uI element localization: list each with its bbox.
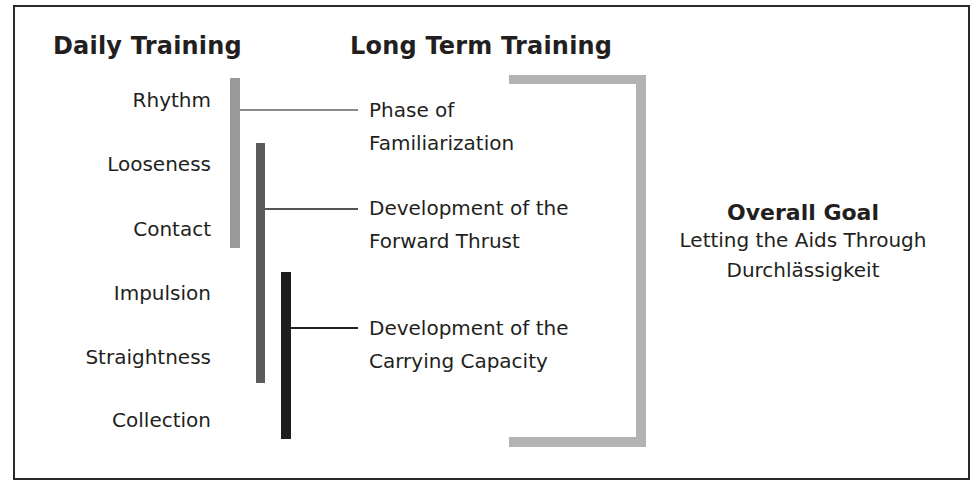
daily-item-contact: Contact: [11, 217, 211, 241]
overall-goal-title: Overall Goal: [650, 200, 956, 225]
bracket-top: [509, 75, 646, 84]
forward-thrust-span-bar: [256, 143, 265, 383]
phase-forward-thrust-line1: Development of the: [369, 192, 568, 225]
phase-familiarization-line1: Phase of: [369, 94, 514, 127]
daily-item-looseness: Looseness: [11, 152, 211, 176]
carrying-capacity-connector: [291, 327, 358, 329]
phase-carrying-capacity: Development of the Carrying Capacity: [369, 312, 568, 378]
overall-goal-line1: Letting the Aids Through: [650, 225, 956, 255]
phase-familiarization-line2: Familiarization: [369, 127, 514, 160]
phase-carrying-capacity-line1: Development of the: [369, 312, 568, 345]
familiarization-span-bar: [230, 78, 240, 248]
phase-familiarization: Phase of Familiarization: [369, 94, 514, 160]
forward-thrust-connector: [265, 208, 358, 210]
phase-forward-thrust-line2: Forward Thrust: [369, 225, 568, 258]
long-term-training-heading: Long Term Training: [350, 32, 612, 60]
overall-goal-line2: Durchlässigkeit: [650, 255, 956, 285]
daily-item-impulsion: Impulsion: [11, 281, 211, 305]
daily-item-straightness: Straightness: [11, 345, 211, 369]
familiarization-connector: [240, 109, 358, 111]
carrying-capacity-span-bar: [281, 272, 291, 439]
bracket-right: [636, 75, 646, 447]
bracket-bottom: [509, 437, 646, 447]
daily-item-collection: Collection: [11, 408, 211, 432]
phase-carrying-capacity-line2: Carrying Capacity: [369, 345, 568, 378]
daily-training-heading: Daily Training: [53, 32, 242, 60]
daily-item-rhythm: Rhythm: [11, 88, 211, 112]
phase-forward-thrust: Development of the Forward Thrust: [369, 192, 568, 258]
overall-goal: Overall Goal Letting the Aids Through Du…: [650, 200, 956, 285]
